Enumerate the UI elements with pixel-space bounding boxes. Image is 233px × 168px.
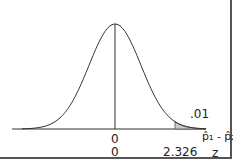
tail-area-label: .01 xyxy=(190,108,209,120)
axis-label-z: z xyxy=(212,147,218,159)
axis-label-phat-diff: p̂₁ - p̂₂ xyxy=(202,131,233,143)
critical-value-label: 2.326 xyxy=(163,146,197,158)
center-tick-top: 0 xyxy=(111,133,119,145)
center-tick-bottom: 0 xyxy=(111,146,119,158)
normal-curve xyxy=(22,24,206,129)
